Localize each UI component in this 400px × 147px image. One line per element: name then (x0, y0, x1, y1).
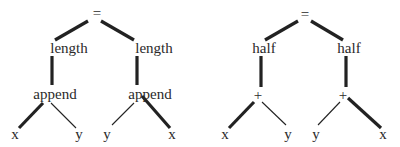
thick-edge (229, 102, 254, 128)
thick-edge (19, 103, 43, 128)
node-equals-right: = (301, 7, 309, 22)
node-length-right: length (135, 41, 173, 56)
thick-edge (101, 21, 134, 40)
thick-edge (348, 98, 381, 128)
thick-edge (265, 21, 298, 40)
thick-edge (311, 21, 343, 40)
node-half-right: half (337, 41, 360, 56)
node-append-right: append (128, 87, 171, 102)
node-equals-left: = (93, 6, 101, 21)
leaf-x: x (379, 127, 387, 142)
leaf-y: y (284, 127, 292, 142)
thin-edge (51, 103, 76, 128)
node-plus-right: + (339, 88, 347, 103)
leaf-x: x (11, 127, 19, 142)
thin-edge (262, 102, 286, 125)
leaf-y: y (312, 127, 320, 142)
leaf-x: x (168, 127, 176, 142)
thin-edge (318, 102, 340, 125)
leaf-y: y (75, 127, 83, 142)
thin-edge (112, 103, 134, 125)
tree-edges (0, 0, 400, 147)
leaf-x: x (221, 127, 229, 142)
thick-edge (55, 21, 88, 40)
node-length-left: length (50, 41, 88, 56)
node-append-left: append (33, 87, 76, 102)
node-half-left: half (252, 41, 275, 56)
leaf-y: y (103, 127, 111, 142)
node-plus-left: + (254, 88, 262, 103)
